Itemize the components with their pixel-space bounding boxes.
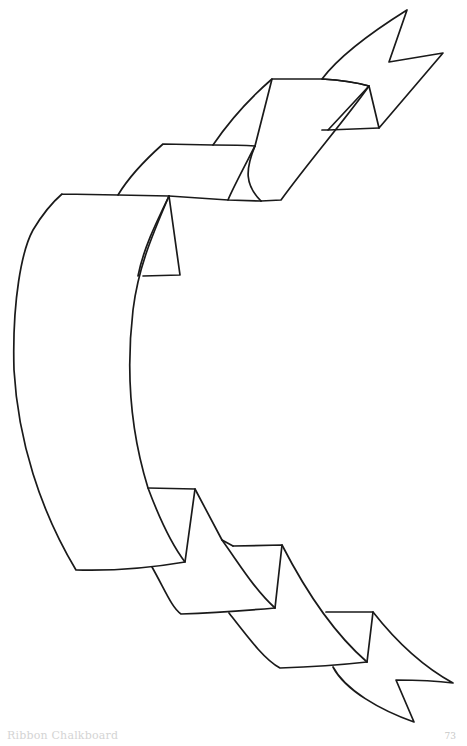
lower-segment-1 [152, 540, 282, 614]
second-segment [118, 144, 261, 201]
footer-title: Ribbon Chalkboard [7, 729, 118, 742]
lower-segment-2 [229, 545, 373, 668]
top-tail [322, 10, 443, 130]
upper-fold [138, 196, 180, 276]
lower-fold [148, 488, 233, 562]
bottom-tail [333, 612, 453, 722]
page-number: 73 [445, 731, 456, 741]
main-banner [14, 194, 185, 570]
ribbon-illustration [0, 0, 467, 746]
